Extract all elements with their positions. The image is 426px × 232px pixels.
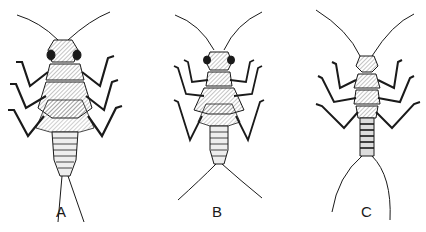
panel-label-c: C <box>361 203 372 220</box>
panel-label-a: A <box>56 203 66 220</box>
nymph-a <box>8 12 122 222</box>
nymph-c <box>316 10 420 220</box>
stonefly-nymph-figure <box>0 0 426 232</box>
panel-label-b: B <box>212 203 222 220</box>
nymph-b <box>174 12 264 200</box>
